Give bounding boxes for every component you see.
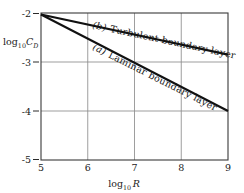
y-axis-label-base: log xyxy=(3,36,18,47)
x-tick-label-7: 7 xyxy=(131,162,137,173)
laminar-curve-text: Laminar boundary layer xyxy=(107,49,220,113)
x-axis-label-sub: 10 xyxy=(123,184,131,192)
chart-svg: -2 -3 -4 -5 5 6 7 8 9 log10CD log10R (b)… xyxy=(0,0,244,193)
x-axis-label-base: log xyxy=(108,178,123,189)
x-axis-label-var: R xyxy=(132,178,140,189)
y-tick-label-minus2: -2 xyxy=(22,8,31,19)
y-axis-label-var-sub: D xyxy=(32,42,38,50)
chart-figure: -2 -3 -4 -5 5 6 7 8 9 log10CD log10R (b)… xyxy=(0,0,244,193)
x-tick-label-5: 5 xyxy=(38,162,44,173)
turbulent-curve-text: Turbulent boundary layer xyxy=(109,23,237,61)
y-axis-label: log10CD xyxy=(3,36,38,50)
x-tick-label-8: 8 xyxy=(178,162,184,173)
y-tick-label-minus5: -5 xyxy=(22,154,31,165)
y-axis-label-sub: 10 xyxy=(18,42,26,50)
turbulent-curve-marker: (b) xyxy=(92,19,108,33)
y-tick-label-minus3: -3 xyxy=(22,57,31,68)
x-axis-label: log10R xyxy=(108,178,140,192)
x-tick-label-9: 9 xyxy=(225,162,231,173)
x-tick-label-6: 6 xyxy=(85,162,91,173)
laminar-curve-marker: (a) xyxy=(91,41,108,57)
y-tick-marks xyxy=(33,14,39,160)
y-tick-label-minus4: -4 xyxy=(22,106,31,117)
